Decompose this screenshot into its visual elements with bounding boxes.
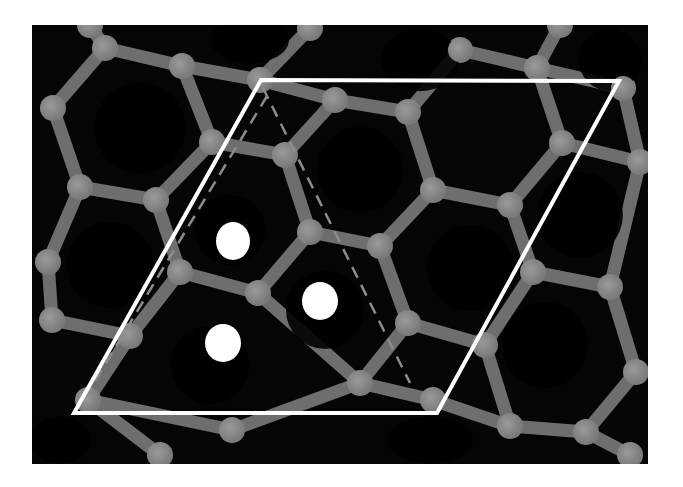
carbon-atom-overlay: [421, 178, 445, 202]
carbon-atom-overlay: [220, 418, 244, 442]
lattice-figure: [0, 0, 683, 487]
ring-center: [502, 302, 588, 388]
carbon-atom-overlay: [41, 96, 65, 120]
ring-center: [537, 172, 623, 258]
carbon-atom-overlay: [624, 360, 648, 384]
carbon-atom-overlay: [148, 443, 172, 467]
carbon-atom-overlay: [396, 311, 420, 335]
carbon-atom-overlay: [36, 250, 60, 274]
carbon-atom-overlay: [368, 234, 392, 258]
carbon-atom-overlay: [93, 36, 117, 60]
carbon-atom-overlay: [168, 260, 192, 284]
carbon-atom-overlay: [574, 420, 598, 444]
carbon-atom-overlay: [448, 38, 472, 62]
carbon-atom-overlay: [68, 175, 92, 199]
ring-center: [29, 417, 91, 464]
ring-center: [95, 83, 185, 173]
adsorbate-site-dot: [216, 222, 250, 260]
carbon-atom-overlay: [298, 220, 322, 244]
carbon-atom-overlay: [498, 193, 522, 217]
ring-center: [317, 127, 403, 213]
adsorbate-site-dot: [205, 324, 241, 362]
carbon-atom-overlay: [348, 371, 372, 395]
carbon-atom-overlay: [550, 131, 574, 155]
carbon-atom-overlay: [170, 54, 194, 78]
adsorbate-site-dot: [302, 282, 338, 320]
carbon-atom-overlay: [598, 275, 622, 299]
carbon-atom-overlay: [396, 100, 420, 124]
lattice-canvas: [0, 0, 683, 487]
carbon-atom-overlay: [144, 188, 168, 212]
carbon-atom-overlay: [323, 88, 347, 112]
ring-center: [387, 417, 473, 464]
carbon-atom-overlay: [40, 308, 64, 332]
carbon-atom-overlay: [525, 56, 549, 80]
carbon-atom-overlay: [618, 443, 642, 467]
carbon-atom-overlay: [498, 414, 522, 438]
carbon-atom-overlay: [473, 333, 497, 357]
carbon-atom-overlay: [246, 281, 270, 305]
carbon-atom-overlay: [521, 260, 545, 284]
